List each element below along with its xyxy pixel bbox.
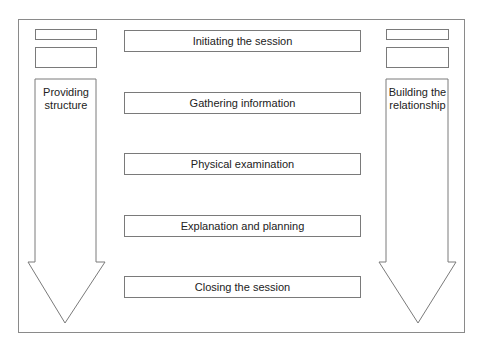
left-small-box-1 — [35, 29, 97, 40]
stage-label: Physical examination — [191, 158, 294, 170]
stage-initiating-session: Initiating the session — [124, 30, 361, 52]
stage-label: Initiating the session — [193, 35, 293, 47]
building-relationship-line2: relationship — [386, 99, 449, 112]
right-small-box-1 — [386, 29, 449, 40]
right-small-box-2 — [386, 47, 449, 68]
left-small-box-2 — [35, 47, 97, 68]
building-relationship-line1: Building the — [386, 86, 449, 99]
providing-structure-line2: structure — [35, 99, 97, 112]
stage-label: Explanation and planning — [181, 220, 305, 232]
stage-physical-examination: Physical examination — [124, 153, 361, 175]
building-relationship-label: Building the relationship — [386, 86, 449, 112]
stage-explanation-planning: Explanation and planning — [124, 215, 361, 237]
stage-label: Gathering information — [190, 97, 296, 109]
stage-closing-session: Closing the session — [124, 276, 361, 298]
stage-gathering-information: Gathering information — [124, 92, 361, 114]
providing-structure-label: Providing structure — [35, 86, 97, 112]
providing-structure-line1: Providing — [35, 86, 97, 99]
stage-label: Closing the session — [195, 281, 290, 293]
